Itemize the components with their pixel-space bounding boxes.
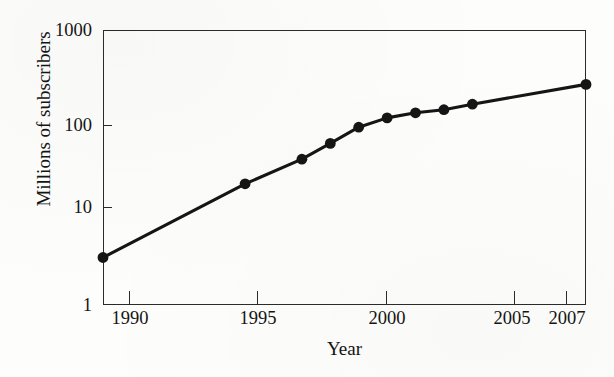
data-point-2000: [382, 113, 393, 124]
data-point-2001: [410, 107, 421, 118]
data-point-1999: [353, 122, 364, 133]
data-point-2007: [581, 79, 592, 90]
data-point-1990: [98, 252, 109, 263]
series-line-mobile-subscribers: [103, 84, 586, 257]
data-point-2003: [467, 99, 478, 110]
data-point-1997: [297, 154, 308, 165]
data-point-2002: [439, 104, 450, 115]
data-point-1995: [240, 178, 251, 189]
data-series-layer: [0, 0, 614, 377]
series-markers: [98, 79, 592, 263]
chart-figure: 1000 100 10 1 Millions of subscribers 19…: [0, 0, 614, 377]
data-point-1998: [325, 138, 336, 149]
